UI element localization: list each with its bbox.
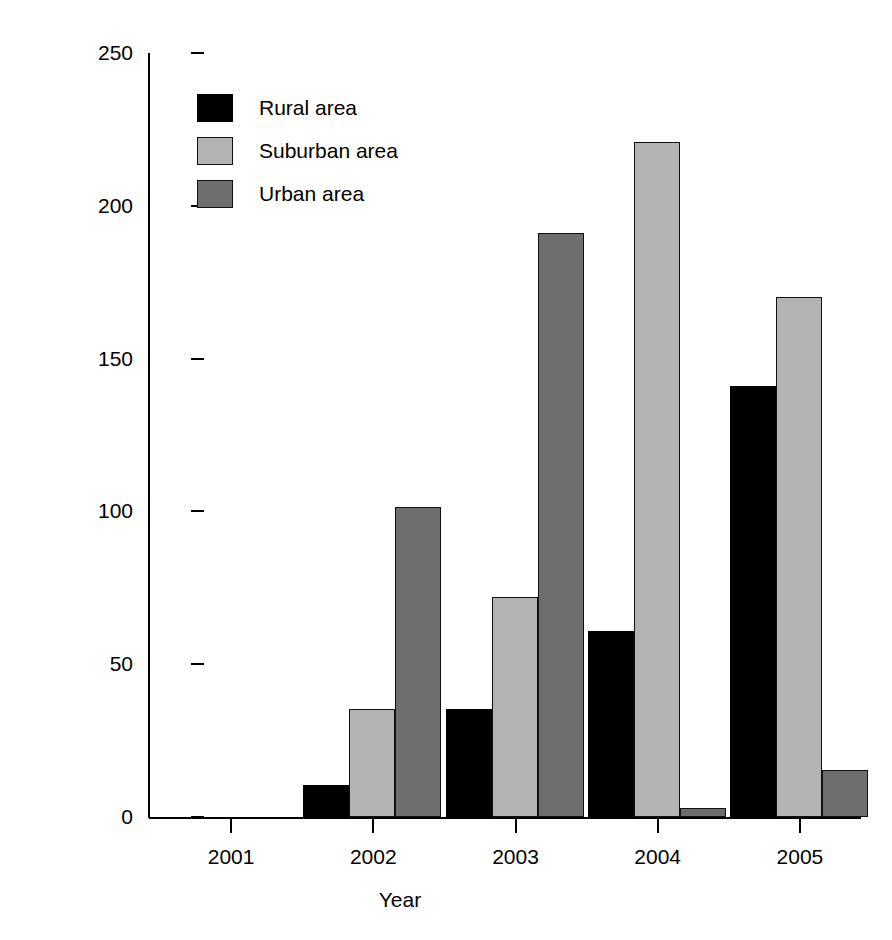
- legend-label: Suburban area: [259, 139, 398, 163]
- bar-2005-rural-area: [730, 386, 776, 817]
- bar-chart-figure: Plant biomass (g m−2) 050100150200250 20…: [0, 0, 892, 940]
- x-tick-label: 2003: [466, 845, 566, 869]
- y-tick-mark: [191, 358, 204, 360]
- legend-swatch-icon: [197, 180, 233, 208]
- x-tick-mark: [799, 819, 801, 833]
- y-tick-label: 200: [63, 195, 133, 216]
- legend-swatch-icon: [197, 137, 233, 165]
- chart-legend: Rural areaSuburban areaUrban area: [197, 86, 497, 215]
- x-tick-label: 2002: [323, 845, 423, 869]
- x-axis-line: [149, 817, 861, 819]
- bar-2002-urban-area: [395, 507, 441, 817]
- y-tick-mark: [191, 510, 204, 512]
- bar-2004-rural-area: [588, 631, 634, 817]
- x-tick-label: 2005: [750, 845, 850, 869]
- y-tick-label: 0: [63, 806, 133, 827]
- y-tick-label: 150: [63, 348, 133, 369]
- bar-2005-urban-area: [822, 770, 868, 817]
- y-tick-label: 100: [63, 500, 133, 521]
- x-tick-mark: [372, 819, 374, 833]
- x-tick-label: 2001: [181, 845, 281, 869]
- bar-2003-rural-area: [446, 709, 492, 817]
- legend-label: Urban area: [259, 182, 364, 206]
- y-axis-line: [148, 53, 150, 818]
- legend-item-rural-area: Rural area: [197, 86, 497, 129]
- x-tick-mark: [657, 819, 659, 833]
- bar-2002-suburban-area: [349, 709, 395, 817]
- bar-2004-suburban-area: [634, 142, 680, 817]
- y-axis-ticks: 050100150200250: [55, 0, 133, 940]
- x-axis-title: Year: [150, 888, 650, 912]
- bar-2004-urban-area: [680, 808, 726, 817]
- x-tick-label: 2004: [608, 845, 708, 869]
- bar-2002-rural-area: [303, 785, 349, 817]
- legend-swatch-icon: [197, 94, 233, 122]
- bar-2005-suburban-area: [776, 297, 822, 817]
- bar-2003-suburban-area: [492, 597, 538, 817]
- y-tick-label: 50: [63, 653, 133, 674]
- x-tick-mark: [515, 819, 517, 833]
- bar-2003-urban-area: [538, 233, 584, 817]
- x-tick-mark: [230, 819, 232, 833]
- y-tick-label: 250: [63, 42, 133, 63]
- y-tick-mark: [191, 52, 204, 54]
- legend-item-suburban-area: Suburban area: [197, 129, 497, 172]
- legend-label: Rural area: [259, 96, 357, 120]
- y-tick-mark: [191, 663, 204, 665]
- legend-item-urban-area: Urban area: [197, 172, 497, 215]
